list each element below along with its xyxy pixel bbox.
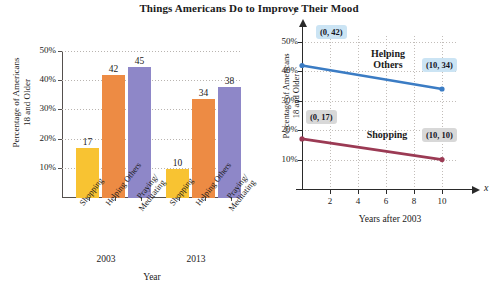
line-ytick-label-50: 50% [282,36,299,46]
line-chart: Percentage of Americans 18 and Older y x… [262,14,498,291]
bar-ytick-30 [58,109,62,110]
callout-shopping-start: (0, 17) [306,110,337,124]
line-chart-plot-area: y x 50% 40% 30% 20% 10% 2 4 [302,36,458,190]
series-label-shopping: Shopping [352,129,422,140]
bar-value-label: 42 [109,64,119,74]
line-xtick-label-8: 8 [412,196,417,206]
bar-ytick-label-10: 10% [40,162,57,172]
figure-title: Things Americans Do to Improve Their Moo… [0,2,498,14]
series-label-helping-others: Helping Others [358,48,418,70]
line-ytick-label-30: 30% [282,95,299,105]
data-point-shopping-10 [439,157,444,162]
y-axis-arrow-icon [299,19,307,27]
bar-gridline-30 [62,109,242,110]
bar-chart: Percentage of Americans 18 and Older 50%… [0,40,262,291]
line-ytick-label-20: 20% [282,124,299,134]
line-ytick-label-40: 40% [282,65,299,75]
line-xtick-label-4: 4 [356,196,361,206]
data-point-shopping-0 [299,136,304,141]
bar-ytick-50 [58,51,62,52]
bar-ytick-label-50: 50% [40,45,57,55]
bar-value-label: 38 [225,76,235,86]
bar-value-label: 45 [135,56,145,66]
line-xtick-label-6: 6 [384,196,389,206]
line-xtick-label-2: 2 [328,196,333,206]
callout-helping-others-start: (0, 42) [316,25,347,39]
bar-ytick-label-30: 30% [40,103,57,113]
y-axis-letter: y [293,4,297,15]
bar-chart-x-axis-label: Year [62,272,242,282]
data-point-helping-others-0 [299,63,304,68]
series-line-shopping [302,139,442,160]
bar-value-label: 10 [173,158,183,168]
callout-helping-others-end: (10, 34) [422,58,457,72]
line-ytick-label-10: 10% [282,154,299,164]
bar-ytick-label-40: 40% [40,74,57,84]
bar-ytick-20 [58,139,62,140]
figure-root: Things Americans Do to Improve Their Moo… [0,0,498,291]
bar-value-label: 34 [199,88,209,98]
bar-group-label-2013: 2013 [166,254,226,264]
x-axis-arrow-icon [472,186,480,194]
bar-group-label-2003: 2003 [76,254,136,264]
bar-value-label: 17 [83,137,93,147]
bar-ytick-label-20: 20% [40,133,57,143]
bar-gridline-50 [62,51,242,52]
line-xtick-label-10: 10 [438,196,447,206]
bar-ytick-40 [58,80,62,81]
data-point-helping-others-10 [439,86,444,91]
line-chart-x-axis-label: Years after 2003 [302,214,478,224]
callout-shopping-end: (10, 10) [422,128,457,142]
x-axis-letter: x [484,182,488,193]
bar-ytick-10 [58,168,62,169]
bar-chart-y-axis-line [62,51,63,198]
bar-chart-y-axis-label: Percentage of Americans 18 and Older [11,38,32,168]
bar-gridline-40 [62,80,242,81]
